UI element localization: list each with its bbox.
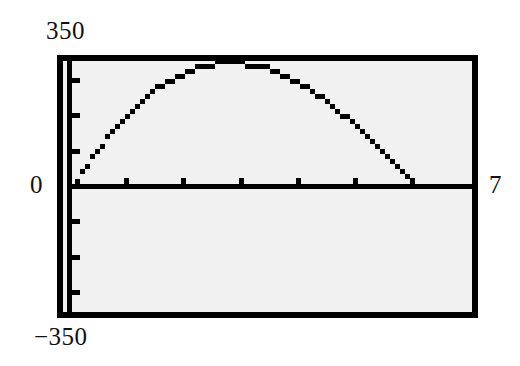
curve-pixel: [105, 134, 111, 139]
plot-frame: [57, 55, 478, 318]
curve-pixel: [175, 74, 181, 79]
curve-pixel: [335, 109, 341, 114]
y-axis-tick: [72, 255, 80, 260]
curve-pixel: [400, 169, 406, 174]
curve-pixel: [290, 79, 296, 84]
curve-pixel: [185, 69, 191, 74]
x-axis-tick: [181, 178, 186, 185]
curve-pixel: [285, 74, 291, 79]
curve-pixel: [390, 159, 396, 164]
curve-pixel: [90, 154, 96, 159]
y-axis-tick: [72, 290, 80, 295]
curve-pixel: [395, 164, 401, 169]
curve-pixel: [275, 69, 281, 74]
curve-pixel: [210, 64, 216, 69]
data-curve: [70, 61, 416, 189]
plot-canvas: [63, 61, 472, 312]
curve-pixel: [325, 99, 331, 104]
curve-pixel: [200, 64, 206, 69]
graph-figure: 350 0 7 −350: [0, 0, 520, 366]
y-axis-min-label: −350: [34, 324, 88, 349]
curve-pixel: [140, 99, 146, 104]
curve-pixel: [205, 64, 211, 69]
curve-pixel: [370, 139, 376, 144]
curve-pixel: [295, 79, 301, 84]
curve-pixel: [225, 61, 231, 64]
curve-pixel: [220, 61, 226, 64]
curve-pixel: [160, 84, 166, 89]
curve-pixel: [255, 64, 261, 69]
curve-pixel: [95, 149, 101, 154]
curve-pixel: [320, 94, 326, 99]
x-axis-tick: [124, 178, 129, 185]
curve-pixel: [410, 179, 416, 184]
curve-pixel: [155, 84, 161, 89]
x-axis-min-label: 0: [30, 172, 43, 197]
curve-pixel: [135, 104, 141, 109]
curve-pixel: [120, 119, 126, 124]
y-axis-max-label: 350: [46, 18, 85, 43]
curve-pixel: [385, 154, 391, 159]
curve-pixel: [170, 79, 176, 84]
curve-pixel: [245, 64, 251, 69]
curve-pixel: [280, 74, 286, 79]
curve-pixel: [85, 164, 91, 169]
curve-pixel: [380, 149, 386, 154]
y-axis-tick: [72, 219, 80, 224]
curve-pixel: [340, 114, 346, 119]
curve-pixel: [270, 69, 276, 74]
curve-pixel: [70, 184, 76, 189]
curve-pixel: [330, 104, 336, 109]
curve-pixel: [145, 94, 151, 99]
curve-pixel: [190, 69, 196, 74]
curve-pixel: [125, 114, 131, 119]
curve-pixel: [130, 109, 136, 114]
x-axis-tick: [353, 178, 358, 185]
plot-area: [63, 61, 472, 312]
curve-pixel: [75, 179, 81, 184]
x-axis-max-label: 7: [489, 172, 502, 197]
curve-pixel: [350, 119, 356, 124]
curve-pixel: [375, 144, 381, 149]
curve-pixel: [405, 174, 411, 179]
y-axis-tick: [72, 78, 80, 83]
curve-pixel: [365, 134, 371, 139]
curve-pixel: [80, 169, 86, 174]
curve-pixel: [250, 64, 256, 69]
y-axis-tick: [72, 113, 80, 118]
x-axis-tick: [239, 178, 244, 185]
curve-pixel: [300, 84, 306, 89]
curve-pixel: [260, 64, 266, 69]
curve-pixel: [240, 61, 246, 64]
curve-pixel: [265, 64, 271, 69]
curve-pixel: [100, 144, 106, 149]
curve-pixel: [235, 61, 241, 64]
x-axis-tick: [296, 178, 301, 185]
curve-pixel: [310, 89, 316, 94]
curve-pixel: [215, 61, 221, 64]
curve-pixel: [355, 124, 361, 129]
y-axis-tick: [72, 149, 80, 154]
x-axis-ticks: [124, 178, 415, 185]
curve-pixel: [230, 61, 236, 64]
curve-pixel: [165, 79, 171, 84]
curve-pixel: [150, 89, 156, 94]
curve-pixel: [345, 114, 351, 119]
curve-pixel: [360, 129, 366, 134]
curve-pixel: [115, 124, 121, 129]
curve-pixel: [195, 64, 201, 69]
curve-pixel: [305, 84, 311, 89]
curve-pixel: [180, 74, 186, 79]
curve-pixel: [315, 94, 321, 99]
curve-pixel: [110, 129, 116, 134]
